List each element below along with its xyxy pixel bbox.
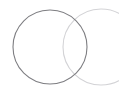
canvas-background — [0, 0, 119, 94]
figure-canvas — [0, 0, 119, 94]
circles-diagram — [0, 0, 119, 94]
